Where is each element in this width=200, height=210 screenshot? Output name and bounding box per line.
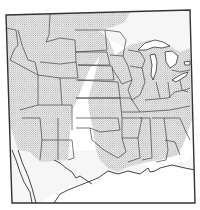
lake-ontario [184,61,190,65]
map-body [6,10,195,203]
range-map [0,0,200,210]
